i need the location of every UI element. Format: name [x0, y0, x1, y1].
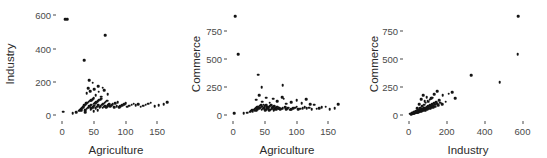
panel-2-y-axis-title: Commerce	[190, 8, 204, 120]
data-point	[234, 15, 237, 18]
data-point	[150, 101, 153, 104]
panel-1-x-tick-mark	[157, 121, 158, 124]
panel-commerce-vs-industry: Commerce 02505007500200400600 Industry	[364, 0, 547, 158]
panel-1-y-tick-mark	[53, 15, 56, 16]
panel-3-y-tick-mark	[400, 114, 403, 115]
data-point	[62, 110, 65, 113]
data-point	[516, 53, 519, 56]
panel-1-y-tick-label: 200	[35, 76, 51, 87]
data-point	[305, 98, 308, 101]
panel-1-y-tick-label: 600	[35, 10, 51, 21]
data-point	[260, 86, 263, 89]
data-point	[517, 15, 520, 18]
data-point	[438, 99, 441, 102]
panel-1-x-tick-label: 100	[118, 126, 134, 137]
data-point	[498, 81, 501, 84]
data-point	[430, 97, 433, 100]
panel-2-y-tick-label: 0	[217, 109, 222, 120]
data-point	[276, 100, 279, 103]
panel-3-x-tick-label: 600	[515, 126, 531, 137]
panel-2-x-axis-title: Agriculture	[228, 144, 346, 156]
data-point	[447, 92, 450, 95]
data-point	[124, 102, 127, 105]
panel-2-y-tick-label: 750	[206, 26, 222, 37]
data-point	[281, 96, 284, 99]
data-point	[295, 99, 298, 102]
panel-3-x-tick-mark	[446, 121, 447, 124]
panel-1-x-axis-title: Agriculture	[57, 144, 175, 156]
data-point	[272, 97, 275, 100]
panel-2-y-tick-mark	[224, 114, 227, 115]
data-point	[300, 102, 303, 105]
panel-3-y-axis-title-wrap: Commerce	[368, 8, 382, 120]
panel-3-y-tick-mark	[400, 86, 403, 87]
data-point	[433, 93, 436, 96]
data-point	[92, 97, 95, 100]
data-point	[310, 108, 313, 111]
data-point	[103, 89, 106, 92]
panel-commerce-vs-agriculture: Commerce 0250500750050100150 Agriculture	[186, 0, 364, 158]
panel-1-y-tick-label: 0	[46, 110, 51, 121]
data-point	[444, 100, 447, 103]
data-point	[309, 103, 312, 106]
data-point	[324, 105, 327, 108]
data-point	[265, 96, 268, 99]
panel-2-points-layer	[228, 12, 346, 120]
panel-1-x-tick-label: 0	[59, 126, 64, 137]
panel-3-x-tick-mark	[522, 121, 523, 124]
panel-1-y-tick-label: 400	[35, 43, 51, 54]
data-point	[261, 100, 264, 103]
panel-3-x-tick-mark	[484, 121, 485, 124]
data-point	[106, 99, 109, 102]
panel-2-y-tick-label: 250	[206, 81, 222, 92]
data-point	[89, 90, 92, 93]
data-point	[91, 81, 94, 84]
data-point	[86, 92, 89, 95]
data-point	[162, 103, 165, 106]
data-point	[285, 102, 288, 105]
panel-3-y-axis-title: Commerce	[368, 8, 382, 120]
data-point	[96, 109, 99, 112]
data-point	[257, 73, 260, 76]
panel-2-x-tick-mark	[264, 121, 265, 124]
data-point	[436, 90, 439, 93]
panel-1-x-tick-label: 150	[149, 126, 165, 137]
data-point	[93, 88, 96, 91]
data-point	[97, 85, 100, 88]
panel-2-x-tick-label: 0	[230, 126, 235, 137]
panel-1-plot-area: 0200400600050100150	[57, 12, 175, 120]
data-point	[88, 79, 91, 82]
data-point	[281, 84, 284, 87]
scatterplot-matrix-figure: Industry 0200400600050100150 Agriculture…	[0, 0, 547, 158]
panel-3-x-tick-label: 400	[477, 126, 493, 137]
data-point	[470, 74, 473, 77]
panel-2-x-tick-label: 50	[259, 126, 270, 137]
data-point	[333, 107, 336, 110]
panel-3-plot-area: 02505007500200400600	[404, 12, 532, 120]
data-point	[454, 97, 457, 100]
panel-2-x-tick-mark	[328, 121, 329, 124]
panel-1-points-layer	[57, 12, 175, 120]
data-point	[104, 34, 107, 37]
data-point	[92, 110, 95, 113]
panel-3-y-tick-label: 500	[382, 54, 398, 65]
panel-industry-vs-agriculture: Industry 0200400600050100150 Agriculture	[0, 0, 186, 158]
panel-3-y-tick-mark	[400, 31, 403, 32]
data-point	[106, 93, 109, 96]
panel-3-x-axis-title: Industry	[404, 144, 532, 156]
panel-2-y-tick-label: 500	[206, 54, 222, 65]
data-point	[258, 94, 261, 97]
data-point	[84, 111, 87, 114]
panel-2-y-tick-mark	[224, 31, 227, 32]
data-point	[408, 112, 411, 115]
data-point	[442, 94, 445, 97]
panel-2-x-tick-mark	[233, 121, 234, 124]
data-point	[153, 105, 156, 108]
data-point	[94, 94, 97, 97]
panel-3-y-tick-label: 0	[393, 109, 398, 120]
data-point	[290, 101, 293, 104]
panel-3-points-layer	[404, 12, 532, 120]
data-point	[80, 110, 83, 113]
data-point	[255, 99, 258, 102]
data-point	[101, 86, 104, 89]
